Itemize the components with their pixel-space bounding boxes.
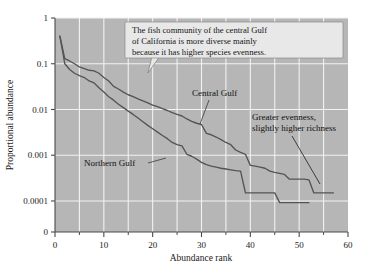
x-tick-label: 30 <box>197 240 207 250</box>
callout-line-3: because it has higher species evenness. <box>132 47 266 57</box>
callout-line-1: The fish community of the central Gulf <box>132 25 267 35</box>
callout-line-2: of California is more diverse mainly <box>132 36 258 46</box>
y-tick-label: 0.001 <box>28 150 48 160</box>
central-gulf-label: Central Gulf <box>192 88 237 98</box>
x-axis-title: Abundance rank <box>170 253 233 263</box>
x-tick-label: 40 <box>246 240 256 250</box>
x-tick-label: 60 <box>344 240 354 250</box>
richness-note-line-1: Greater evenness, <box>252 112 316 122</box>
x-tick-label: 0 <box>53 240 58 250</box>
y-tick-label: 1 <box>44 13 49 23</box>
y-tick-label: 0 <box>44 227 49 237</box>
x-tick-label: 10 <box>99 240 109 250</box>
y-tick-label: 0.0001 <box>23 196 48 206</box>
x-tick-label: 20 <box>148 240 158 250</box>
chart-page: 10.10.010.0010.00010 0102030405060 Abund… <box>0 0 368 279</box>
y-axis-title: Proportional abundance <box>5 80 15 171</box>
x-tick-label: 50 <box>295 240 305 250</box>
richness-note-line-2: slightly higher richness <box>252 123 336 133</box>
y-tick-label: 0.1 <box>37 59 48 69</box>
rank-abundance-chart: 10.10.010.0010.00010 0102030405060 Abund… <box>0 0 368 279</box>
y-tick-label: 0.01 <box>32 105 48 115</box>
northern-gulf-label: Northern Gulf <box>84 158 135 168</box>
